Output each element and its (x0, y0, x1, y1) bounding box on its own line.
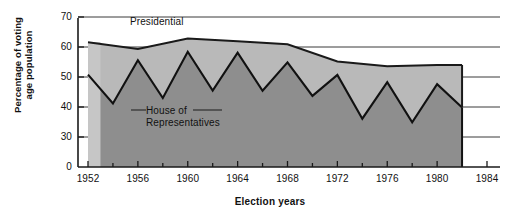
y-tick-label: 60 (44, 41, 72, 52)
x-tick-label: 1952 (68, 173, 108, 184)
annotation-presidential: Presidential (130, 16, 183, 28)
x-tick-label: 1972 (317, 173, 357, 184)
y-tick-label: 40 (44, 101, 72, 112)
y-tick-label: 30 (44, 131, 72, 142)
annotation-presidential-text: Presidential (130, 16, 183, 27)
y-tick-label: 50 (44, 71, 72, 82)
chart-figure: Percentage of voting age population 7060… (0, 0, 515, 216)
annotation-house-line2: Representatives (146, 117, 220, 128)
x-tick-label: 1976 (367, 173, 407, 184)
x-axis-title: Election years (170, 196, 370, 207)
x-tick-label: 1980 (417, 173, 457, 184)
x-tick-label: 1968 (268, 173, 308, 184)
x-tick-label: 1964 (218, 173, 258, 184)
y-tick-label: 70 (44, 11, 72, 22)
annotation-house-line1: House of (146, 105, 187, 116)
x-tick-label: 1984 (467, 173, 507, 184)
series-areas (88, 39, 462, 167)
annotation-house: House of Representatives (146, 105, 220, 129)
x-tick-label: 1956 (118, 173, 158, 184)
x-tick-label: 1960 (168, 173, 208, 184)
y-tick-label: 0 (44, 161, 72, 172)
